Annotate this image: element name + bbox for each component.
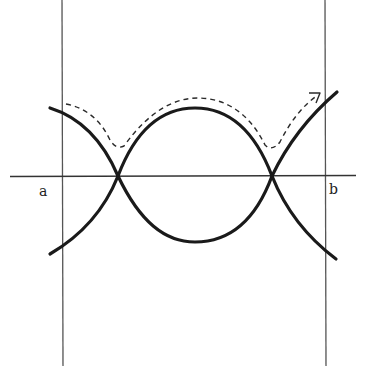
left-lower-branch <box>50 176 118 254</box>
label-a: a <box>39 184 47 198</box>
left-upper-branch <box>50 108 118 176</box>
dashed-path <box>66 95 318 148</box>
label-b: b <box>329 182 338 196</box>
diagram-canvas <box>0 0 368 379</box>
lower-arc <box>118 176 272 242</box>
right-boundary-line <box>325 0 326 366</box>
upper-arc <box>118 108 272 176</box>
right-upper-branch <box>272 92 337 176</box>
left-boundary-line <box>62 0 63 366</box>
right-lower-branch <box>272 176 336 259</box>
